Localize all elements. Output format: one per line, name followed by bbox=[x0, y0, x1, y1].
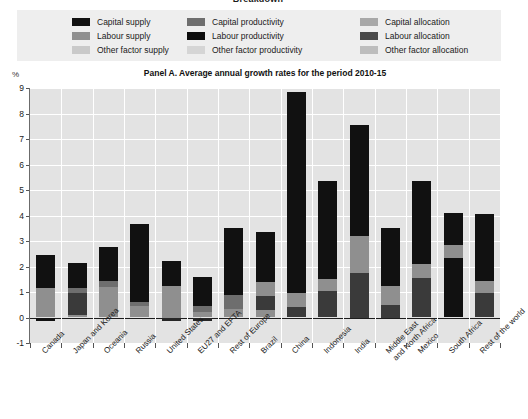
x-tick-mark bbox=[343, 343, 344, 348]
x-tick-mark bbox=[249, 343, 250, 348]
bar-segment-capital-supply bbox=[68, 263, 87, 289]
y-tick-mark bbox=[26, 216, 29, 217]
bar-segment-capital-supply bbox=[224, 228, 243, 294]
bar-indonesia[interactable] bbox=[318, 88, 337, 343]
x-tick-mark bbox=[93, 343, 94, 348]
x-gridline bbox=[61, 88, 62, 343]
x-tick-mark bbox=[124, 343, 125, 348]
bar-segment-capital-allocation bbox=[256, 296, 275, 310]
bar-segment-capital-supply bbox=[256, 232, 275, 282]
bar-segment-capital-supply bbox=[318, 181, 337, 279]
bar-segment-capital-supply bbox=[287, 92, 306, 293]
bar-segment-capital-supply bbox=[193, 277, 212, 306]
y-tick-label: 5 bbox=[2, 185, 24, 195]
x-tick-mark bbox=[375, 343, 376, 348]
x-gridline bbox=[375, 88, 376, 343]
bar-segment-capital-productivity bbox=[256, 282, 275, 296]
x-gridline bbox=[249, 88, 250, 343]
bar-segment-capital-productivity bbox=[130, 302, 149, 306]
y-tick-mark bbox=[26, 343, 29, 344]
x-tick-mark bbox=[406, 343, 407, 348]
x-gridline bbox=[93, 88, 94, 343]
y-tick-label: 3 bbox=[2, 236, 24, 246]
y-tick-mark bbox=[26, 139, 29, 140]
bar-segment-capital-productivity bbox=[224, 295, 243, 309]
x-gridline bbox=[406, 88, 407, 343]
bar-segment-negative-seg bbox=[162, 318, 181, 322]
bar-segment-capital-productivity bbox=[412, 264, 431, 278]
y-tick-label: 9 bbox=[2, 83, 24, 93]
bar-segment-capital-productivity bbox=[318, 279, 337, 290]
bar-segment-capital-productivity bbox=[99, 281, 118, 287]
bar-segment-labour-supply bbox=[36, 288, 55, 317]
bar-brazil[interactable] bbox=[256, 88, 275, 343]
bar-segment-capital-productivity bbox=[287, 293, 306, 307]
bar-segment-capital-supply bbox=[99, 247, 118, 280]
bar-segment-capital-productivity bbox=[475, 281, 494, 294]
bar-segment-capital-productivity bbox=[350, 236, 369, 273]
bar-japan-and-korea[interactable] bbox=[68, 88, 87, 343]
x-gridline bbox=[469, 88, 470, 343]
y-tick-mark bbox=[26, 318, 29, 319]
bar-segment-labour-supply bbox=[130, 306, 149, 317]
y-tick-label: 8 bbox=[2, 109, 24, 119]
bar-segment-labour-supply bbox=[318, 291, 337, 318]
x-tick-mark bbox=[61, 343, 62, 348]
bar-segment-capital-supply bbox=[162, 261, 181, 285]
bar-segment-labour-supply bbox=[350, 273, 369, 318]
x-tick-mark bbox=[281, 343, 282, 348]
x-gridline bbox=[343, 88, 344, 343]
x-tick-mark bbox=[187, 343, 188, 348]
bar-united-states[interactable] bbox=[162, 88, 181, 343]
y-tick-mark bbox=[26, 165, 29, 166]
y-tick-label: 0 bbox=[2, 313, 24, 323]
y-tick-label: 6 bbox=[2, 160, 24, 170]
x-gridline bbox=[218, 88, 219, 343]
bar-segment-capital-productivity bbox=[381, 286, 400, 305]
y-tick-mark bbox=[26, 267, 29, 268]
y-tick-label: 4 bbox=[2, 211, 24, 221]
x-gridline bbox=[155, 88, 156, 343]
bar-oceania[interactable] bbox=[99, 88, 118, 343]
bar-segment-capital-productivity bbox=[68, 288, 87, 293]
x-tick-mark bbox=[469, 343, 470, 348]
bar-segment-negative-seg bbox=[36, 318, 55, 322]
y-axis-line bbox=[29, 88, 30, 344]
y-tick-mark bbox=[26, 88, 29, 89]
bar-segment-capital-productivity bbox=[193, 306, 212, 312]
bar-segment-labour-supply bbox=[68, 315, 87, 318]
x-gridline bbox=[281, 88, 282, 343]
x-gridline bbox=[187, 88, 188, 343]
x-tick-mark bbox=[30, 343, 31, 348]
bar-segment-labour-supply bbox=[475, 293, 494, 317]
y-tick-mark bbox=[26, 190, 29, 191]
bar-canada[interactable] bbox=[36, 88, 55, 343]
bar-segment-capital-supply bbox=[381, 228, 400, 285]
bar-segment-capital-supply bbox=[444, 213, 463, 245]
bar-segment-capital-allocation bbox=[68, 293, 87, 315]
bar-russia[interactable] bbox=[130, 88, 149, 343]
bar-china[interactable] bbox=[287, 88, 306, 343]
bar-india[interactable] bbox=[350, 88, 369, 343]
x-tick-mark bbox=[312, 343, 313, 348]
y-tick-label: -1 bbox=[2, 338, 24, 348]
x-tick-mark bbox=[218, 343, 219, 348]
y-tick-mark bbox=[26, 114, 29, 115]
y-tick-label: 2 bbox=[2, 262, 24, 272]
bar-middle-east-and-north-africa[interactable] bbox=[381, 88, 400, 343]
y-tick-mark bbox=[26, 241, 29, 242]
bar-eu27-and-efta[interactable] bbox=[193, 88, 212, 343]
bar-segment-capital-supply bbox=[130, 224, 149, 302]
x-tick-mark bbox=[500, 343, 501, 348]
bar-rest-of-the-world[interactable] bbox=[475, 88, 494, 343]
bar-segment-labour-supply bbox=[287, 307, 306, 317]
x-tick-mark bbox=[437, 343, 438, 348]
x-tick-mark bbox=[155, 343, 156, 348]
y-tick-label: 1 bbox=[2, 287, 24, 297]
bar-segment-labour-supply bbox=[162, 286, 181, 318]
bar-segment-capital-productivity bbox=[444, 245, 463, 258]
x-gridline bbox=[124, 88, 125, 343]
bar-rest-of-europe[interactable] bbox=[224, 88, 243, 343]
y-tick-label: 7 bbox=[2, 134, 24, 144]
